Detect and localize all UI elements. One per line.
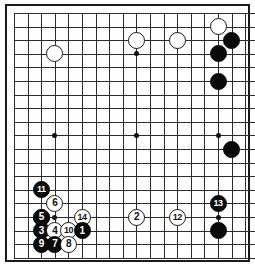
stone-layer: 1165142121334101978 bbox=[0, 0, 255, 266]
black-stone-upper-right-b bbox=[210, 73, 227, 90]
stone-move-number: 6 bbox=[52, 198, 57, 208]
stone-move-number: 13 bbox=[214, 198, 223, 207]
move-2: 2 bbox=[128, 209, 145, 226]
move-8: 8 bbox=[60, 236, 77, 253]
move-13: 13 bbox=[210, 195, 227, 212]
black-stone-upper-right-a bbox=[210, 45, 227, 62]
move-6: 6 bbox=[46, 195, 63, 212]
white-stone-top-center-a bbox=[128, 32, 145, 49]
stone-move-number: 3 bbox=[39, 225, 44, 235]
stone-move-number: 14 bbox=[78, 212, 87, 221]
move-1: 1 bbox=[74, 222, 91, 239]
black-stone-right-side bbox=[223, 141, 240, 158]
white-stone-upper-left bbox=[46, 45, 63, 62]
move-11: 11 bbox=[33, 181, 50, 198]
stone-move-number: 8 bbox=[66, 239, 71, 249]
black-stone-lower-right bbox=[210, 222, 227, 239]
black-stone-upper-right-edge bbox=[223, 32, 240, 49]
stone-move-number: 12 bbox=[173, 212, 182, 221]
go-board-diagram: 1165142121334101978 bbox=[0, 0, 255, 266]
white-stone-upper-right-corner bbox=[210, 18, 227, 35]
white-stone-top-center-b bbox=[169, 32, 186, 49]
stone-move-number: 9 bbox=[39, 239, 44, 249]
stone-move-number: 1 bbox=[80, 225, 85, 235]
stone-move-number: 4 bbox=[52, 225, 57, 235]
stone-move-number: 7 bbox=[52, 239, 57, 249]
move-12: 12 bbox=[169, 209, 186, 226]
stone-move-number: 10 bbox=[64, 226, 73, 235]
stone-move-number: 5 bbox=[39, 212, 44, 222]
stone-move-number: 2 bbox=[134, 212, 139, 222]
stone-move-number: 11 bbox=[37, 185, 45, 194]
